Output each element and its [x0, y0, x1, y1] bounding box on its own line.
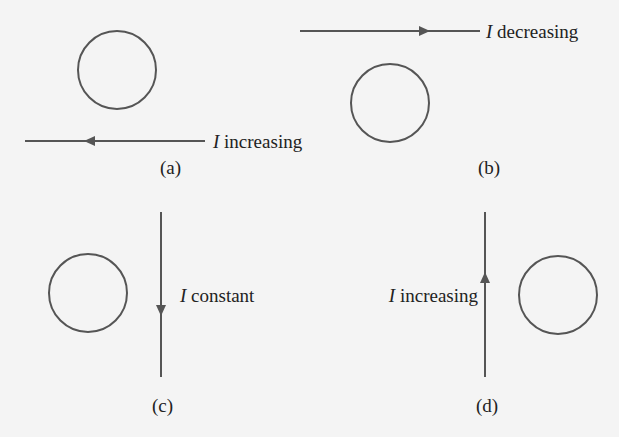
caption-b: (b)	[478, 157, 500, 179]
label-c: I constant	[179, 285, 255, 306]
figure: I increasing (a) I decreasing (b) I cons…	[0, 0, 619, 437]
arrow-right-icon	[419, 26, 430, 36]
label-b: I decreasing	[485, 21, 579, 42]
caption-d: (d)	[476, 395, 498, 417]
panel-d: I increasing (d)	[388, 212, 597, 417]
panel-a: I increasing (a)	[25, 31, 303, 179]
caption-c: (c)	[152, 395, 173, 417]
figure-canvas: I increasing (a) I decreasing (b) I cons…	[0, 0, 619, 437]
loop-b	[351, 64, 429, 142]
loop-d	[519, 256, 597, 334]
panel-b: I decreasing (b)	[300, 21, 579, 179]
caption-a: (a)	[160, 157, 181, 179]
arrow-up-icon	[480, 272, 490, 283]
panel-c: I constant (c)	[49, 212, 255, 417]
loop-c	[49, 254, 127, 332]
loop-a	[78, 31, 156, 109]
arrow-down-icon	[156, 305, 166, 316]
arrow-left-icon	[84, 136, 95, 146]
label-d: I increasing	[388, 285, 479, 306]
label-a: I increasing	[212, 131, 303, 152]
